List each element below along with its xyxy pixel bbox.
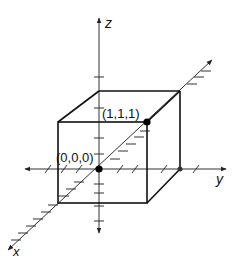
x-axis bbox=[8, 60, 212, 250]
corner-point bbox=[143, 118, 150, 125]
corner-label: (1,1,1) bbox=[102, 106, 140, 121]
y-axis bbox=[25, 165, 226, 173]
origin-point bbox=[95, 165, 102, 172]
cube-edge bbox=[58, 91, 99, 122]
y-intercept-point bbox=[178, 167, 183, 172]
cube-diagram: (1,1,1) (0,0,0) z y x bbox=[0, 0, 239, 262]
x-axis-label: x bbox=[12, 244, 20, 259]
cube-edge bbox=[147, 91, 180, 122]
z-axis bbox=[94, 18, 104, 233]
y-axis-label: y bbox=[215, 171, 224, 187]
cube-edge bbox=[147, 169, 180, 203]
z-axis-label: z bbox=[104, 15, 112, 31]
origin-label: (0,0,0) bbox=[56, 150, 94, 165]
